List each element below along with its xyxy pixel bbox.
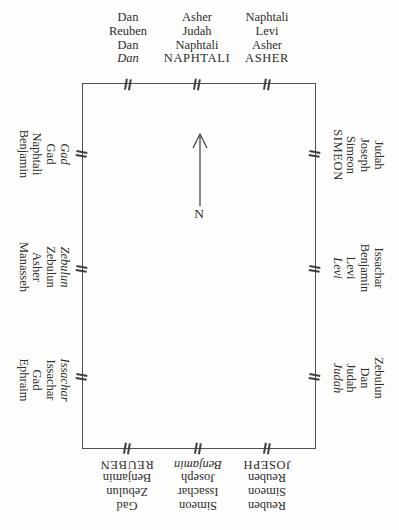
gate-mark-icon (120, 441, 134, 455)
gate-mark-icon (260, 441, 274, 455)
tribe-name: Reuben (109, 25, 147, 39)
gate-mark-icon (75, 147, 89, 161)
diagram-canvas: Dan Reuben Dan Dan Asher Judah Naphtali … (0, 0, 399, 530)
tribe-name: Gad (29, 358, 43, 401)
tribe-name: Levi (343, 244, 357, 293)
tribe-name: NAPHTALI (164, 52, 230, 66)
tribe-name: Levi (245, 25, 289, 39)
gate-names-bottom-2: Simeon Issachar Joseph Benjamin (174, 456, 222, 511)
tribe-name: Issachar (57, 358, 71, 401)
tribe-name: Judah (371, 129, 385, 181)
gate-mark-icon (191, 441, 205, 455)
gate-mark-icon (190, 77, 204, 91)
north-label: N (194, 206, 204, 222)
gate-mark-icon (75, 262, 89, 276)
tribe-name: Dan (109, 52, 147, 66)
tribe-name: Dan (357, 357, 371, 399)
tribe-name: Dan (109, 11, 147, 25)
tribe-name: Asher (164, 11, 230, 25)
gate-mark-icon (121, 77, 135, 91)
tribe-name: Naphtali (29, 130, 43, 179)
tribe-name: Levi (329, 244, 343, 293)
tribe-name: Judah (329, 357, 343, 399)
tribe-name: Gad (57, 130, 71, 179)
tribe-name: Asher (245, 39, 289, 53)
gate-mark-icon (260, 77, 274, 91)
tribe-name: Joseph (174, 470, 222, 484)
gate-names-bottom-3: Reuben Simeon Reuben JOSEPH (243, 456, 291, 511)
tribe-name: Benjamin (15, 130, 29, 179)
tribe-name: Zebulun (57, 242, 71, 292)
gate-names-top-2: Asher Judah Naphtali NAPHTALI (164, 11, 230, 66)
gate-names-left-2: Zebulun Zebulun Asher Manasseh (15, 242, 70, 292)
north-arrow-icon (184, 126, 216, 210)
gate-names-top-1: Dan Reuben Dan Dan (109, 11, 147, 66)
tribe-name: Benjamin (100, 470, 154, 484)
tribe-name: Issachar (371, 244, 385, 293)
tribe-name: Gad (43, 130, 57, 179)
tribe-name: Reuben (243, 470, 291, 484)
tribe-name: Issachar (174, 484, 222, 498)
gate-mark-icon (308, 370, 322, 384)
gate-names-bottom-1: Gad Zebulun Benjamin REUBEN (100, 456, 154, 511)
gate-mark-icon (75, 370, 89, 384)
tribe-name: Naphtali (164, 39, 230, 53)
tribe-name: Dan (109, 39, 147, 53)
tribe-name: Asher (29, 242, 43, 292)
tribe-name: Simeon (343, 129, 357, 181)
tribe-name: SIMEON (329, 129, 343, 181)
tribe-name: Simeon (174, 498, 222, 512)
tribe-name: Simeon (243, 484, 291, 498)
gate-names-top-3: Naphtali Levi Asher ASHER (245, 11, 289, 66)
tribe-name: ASHER (245, 52, 289, 66)
tribe-name: Zebulun (371, 357, 385, 399)
tribe-name: Zebulun (43, 242, 57, 292)
tribe-name: Gad (100, 498, 154, 512)
tribe-name: Reuben (243, 498, 291, 512)
tribe-name: Benjamin (174, 456, 222, 470)
tribe-name: Benjamin (357, 244, 371, 293)
tribe-name: Manasseh (15, 242, 29, 292)
tribe-name: Judah (343, 357, 357, 399)
gate-names-left-1: Gad Gad Naphtali Benjamin (15, 130, 70, 179)
tribe-name: Zebulun (100, 484, 154, 498)
tribe-name: Ephraim (15, 358, 29, 401)
tribe-name: JOSEPH (243, 456, 291, 470)
gate-names-right-3: Zebulun Dan Judah Judah (329, 357, 384, 399)
tribe-name: Naphtali (245, 11, 289, 25)
gate-names-right-1: Judah Joseph Simeon SIMEON (329, 129, 384, 181)
gate-names-left-3: Issachar Issachar Gad Ephraim (15, 358, 70, 401)
tribe-name: Judah (164, 25, 230, 39)
gate-mark-icon (308, 147, 322, 161)
gate-mark-icon (308, 262, 322, 276)
tribe-name: Issachar (43, 358, 57, 401)
tribe-name: Joseph (357, 129, 371, 181)
tribe-name: REUBEN (100, 456, 154, 470)
gate-names-right-2: Issachar Benjamin Levi Levi (329, 244, 384, 293)
